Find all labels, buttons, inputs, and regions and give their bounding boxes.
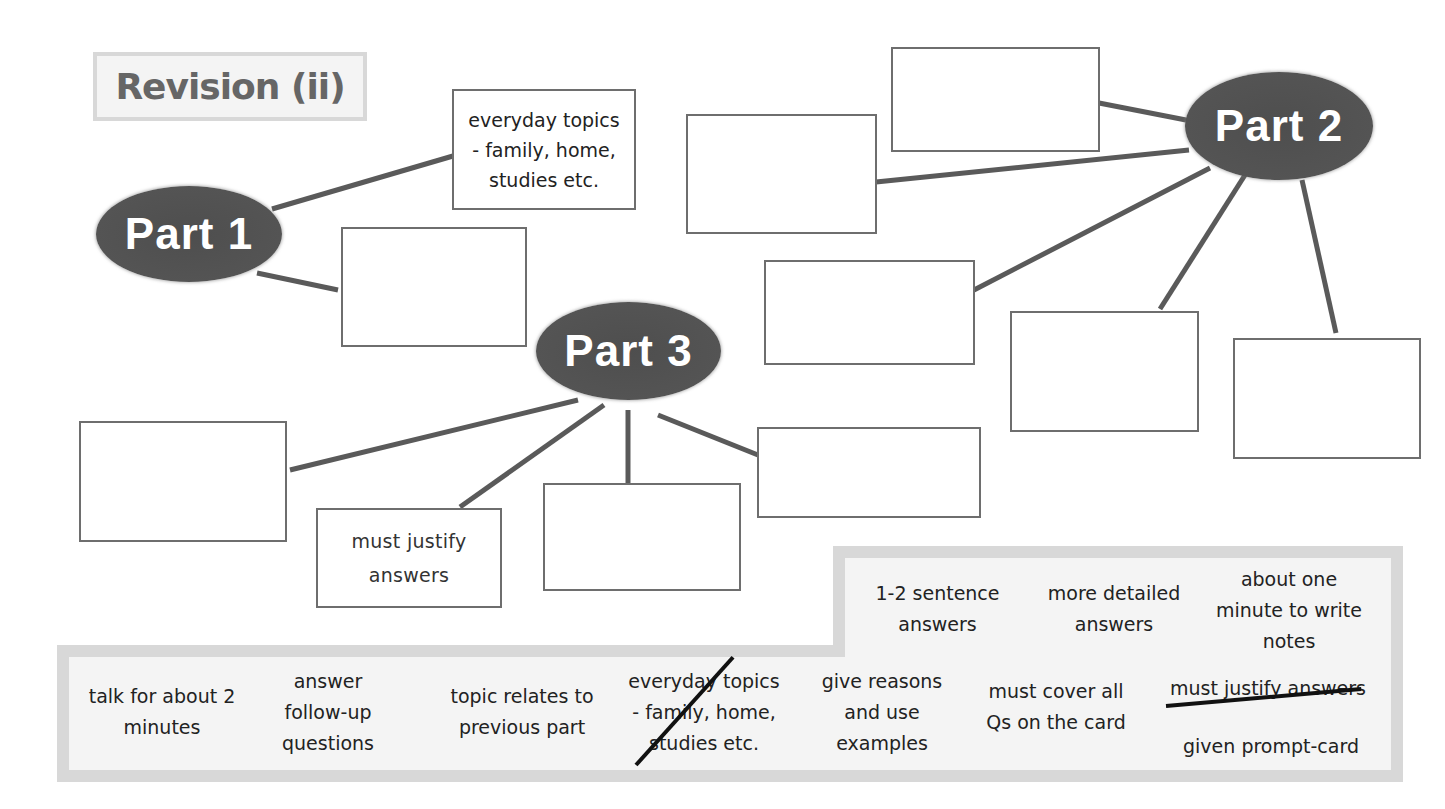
part3-answer-box-2[interactable]: must justify answers (316, 508, 502, 608)
part3-label: Part 3 (564, 326, 692, 376)
part1-node: Part 1 (96, 186, 282, 282)
word-chip[interactable]: 1-2 sentence answers (855, 578, 1020, 640)
word-chip[interactable]: given prompt-card (1164, 731, 1378, 762)
word-chip-crossed[interactable]: everyday topics - family, home, studies … (612, 666, 796, 759)
part2-answer-box-5[interactable] (1233, 338, 1421, 459)
part2-answer-box-4[interactable] (1010, 311, 1199, 432)
part3-answer-box-1[interactable] (79, 421, 287, 542)
box-text: everyday topics - family, home, studies … (468, 105, 619, 195)
word-chip[interactable]: about one minute to write notes (1200, 564, 1378, 657)
part2-node: Part 2 (1185, 72, 1373, 180)
part3-answer-box-3[interactable] (543, 483, 741, 591)
part1-answer-box-1[interactable]: everyday topics - family, home, studies … (452, 89, 636, 210)
word-chip[interactable]: give reasons and use examples (806, 666, 958, 759)
part2-answer-box-3[interactable] (764, 260, 975, 365)
title-box: Revision (ii) (93, 52, 367, 121)
word-chip[interactable]: must cover all Qs on the card (965, 676, 1147, 738)
part2-answer-box-2[interactable] (686, 114, 877, 234)
word-chip[interactable]: more detailed answers (1028, 578, 1200, 640)
page-title: Revision (ii) (115, 66, 344, 107)
part2-answer-box-1[interactable] (891, 47, 1100, 152)
part1-label: Part 1 (125, 209, 253, 259)
word-chip[interactable]: talk for about 2 minutes (72, 681, 252, 743)
part1-answer-box-2[interactable] (341, 227, 527, 347)
part3-node: Part 3 (536, 302, 721, 400)
word-chip[interactable]: topic relates to previous part (432, 681, 612, 743)
part3-answer-box-4[interactable] (757, 427, 981, 518)
box-text: must justify answers (351, 524, 466, 592)
word-chip[interactable]: answer follow-up questions (268, 666, 388, 759)
part2-label: Part 2 (1215, 101, 1343, 151)
